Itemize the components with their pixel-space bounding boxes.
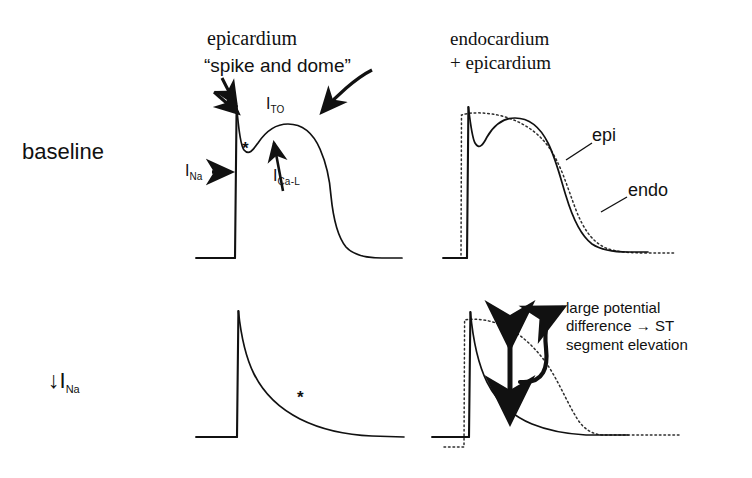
asterisk-marker-top: *	[242, 140, 249, 158]
i-to-subscript: TO	[270, 104, 284, 115]
action-potential-traces	[0, 0, 752, 478]
callout-line-2: difference → ST	[566, 317, 688, 335]
callout-st-elevation: large potential difference → ST segment …	[566, 299, 688, 354]
trace-label-endo: endo	[628, 181, 668, 200]
spike-and-dome-pointer-arrows	[214, 70, 372, 113]
row-label-current-subscript: Na	[66, 383, 80, 395]
annotation-i-cal: ICa-L	[273, 168, 300, 188]
callout-curved-arrow	[520, 308, 562, 382]
callout-line-1: large potential	[566, 299, 688, 317]
column-header-plus-epicardium: + epicardium	[450, 53, 551, 73]
column-subheader-spike-and-dome: “spike and dome”	[204, 56, 351, 76]
figure-canvas: epicardium “spike and dome” endocardium …	[0, 0, 752, 478]
panel-bottom-left-trace	[196, 311, 452, 437]
down-arrow-icon: ↓	[48, 367, 60, 393]
annotation-i-na: INa	[185, 163, 203, 183]
asterisk-marker-bottom: *	[297, 389, 304, 407]
callout-line-3: segment elevation	[566, 336, 688, 354]
i-na-subscript: Na	[189, 171, 202, 182]
column-header-epicardium: epicardium	[207, 28, 297, 49]
annotation-i-to: ITO	[266, 96, 285, 116]
trace-label-epi: epi	[592, 126, 616, 145]
i-cal-subscript: Ca-L	[277, 176, 299, 187]
row-label-baseline: baseline	[22, 140, 104, 163]
column-header-endocardium: endocardium	[450, 29, 549, 49]
row-label-reduced-ina: ↓INa	[48, 368, 80, 396]
